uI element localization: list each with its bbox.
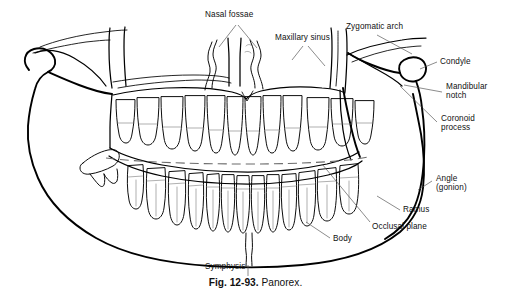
- maxillary-teeth: [116, 96, 374, 155]
- nasal-detail-mark-1: [246, 45, 252, 47]
- impacted-molar-crown: [80, 150, 119, 175]
- lower-tooth-L7: [127, 165, 143, 209]
- symphysis-line-left: [246, 233, 247, 266]
- mandibular-teeth: [127, 164, 358, 233]
- label-nasal-fossae: Nasal fossae: [205, 10, 253, 20]
- figure-caption: Fig. 12-93. Panorex.: [0, 277, 511, 288]
- right-condyle: [399, 57, 426, 81]
- left-coronoid-notch: [48, 72, 112, 94]
- upper-tooth-L1: [227, 97, 243, 155]
- leader-maxillary-sinus-right: [308, 46, 325, 66]
- left-ramus-anterior: [110, 94, 112, 148]
- leader-body: [306, 222, 330, 238]
- symphysis-group: [246, 233, 253, 266]
- impacted-third-molar-left: [80, 150, 119, 187]
- upper-tooth-R8: [355, 101, 374, 144]
- upper-tooth-R6: [307, 98, 329, 150]
- left-palate-inner-line: [118, 80, 231, 88]
- left-upper-sweep-2: [33, 40, 110, 53]
- leader-mandibular-notch: [404, 85, 442, 92]
- upper-tooth-L6: [161, 97, 183, 149]
- label-ramus: Ramus: [403, 205, 429, 215]
- impacted-molar-root-1: [90, 174, 105, 187]
- label-mandibular-notch-line2: notch: [446, 91, 466, 101]
- leader-maxillary-sinus-left: [292, 46, 303, 60]
- right-mandibular-notch: [348, 53, 402, 86]
- figure-panorex: Nasal fossae Maxillary sinus Zygomatic a…: [0, 0, 511, 298]
- right-sinus-inner-detail: [336, 31, 338, 86]
- upper-cervical-lines: [117, 123, 373, 131]
- figure-title: Panorex.: [261, 277, 302, 288]
- panorex-illustration: [0, 0, 511, 298]
- leader-ramus: [377, 196, 400, 210]
- nasal-concha-left-2: [205, 42, 212, 90]
- upper-tooth-R1: [245, 97, 261, 155]
- leader-nasal-fossae-left: [219, 25, 236, 47]
- left-sigmoid-notch-inner: [35, 50, 106, 86]
- upper-tooth-R4: [263, 96, 281, 153]
- right-ramus-posterior: [385, 81, 424, 239]
- upper-tooth-R5: [283, 96, 302, 151]
- leader-zygomatic-arch: [377, 35, 412, 54]
- label-condyle: Condyle: [440, 57, 471, 67]
- nasal-detail-mark-2: [245, 51, 251, 53]
- label-coronoid-process-line2: process: [441, 123, 470, 133]
- label-symphysis: Symphysis: [205, 262, 245, 272]
- right-coronoid-process: [348, 53, 400, 73]
- nasal-concha-right-2: [257, 41, 263, 89]
- symphysis-line-right: [252, 233, 253, 266]
- left-maxillary-sinus: [109, 28, 112, 88]
- mandible-alveolar-upper: [110, 148, 359, 172]
- nasal-concha-right: [250, 40, 255, 88]
- left-maxillary-sinus-2: [124, 27, 126, 86]
- upper-tooth-L4: [207, 96, 225, 153]
- label-occlusal-plane: Occlusal plane: [372, 222, 427, 232]
- left-upper-sweep: [40, 30, 127, 47]
- figure-number: Fig. 12-93.: [209, 277, 259, 288]
- upper-tooth-L5: [185, 96, 205, 151]
- upper-tooth-L7: [137, 98, 159, 145]
- label-zygomatic-arch: Zygomatic arch: [346, 22, 403, 32]
- label-maxillary-sinus: Maxillary sinus: [275, 33, 330, 43]
- lower-cervical-lines: [128, 176, 358, 189]
- right-maxillary-sinus: [330, 28, 332, 88]
- upper-tooth-L8: [116, 100, 135, 143]
- impacted-molar-root-2: [104, 169, 118, 183]
- nasal-septum-right: [240, 38, 241, 86]
- label-angle-gonion-line2: (gonion): [436, 183, 467, 193]
- right-maxillary-sinus-2: [345, 29, 347, 92]
- nasal-septum-left: [228, 38, 229, 86]
- label-body: Body: [333, 234, 352, 244]
- leader-condyle: [420, 62, 437, 69]
- mandible-outline: [25, 30, 424, 267]
